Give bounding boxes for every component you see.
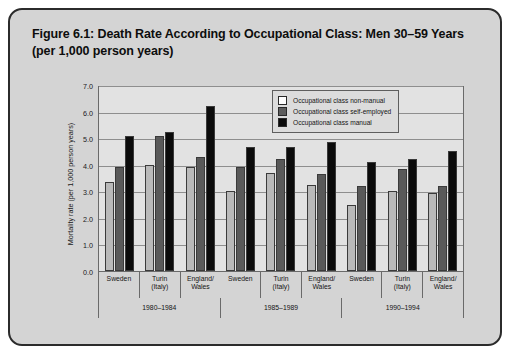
country-bar-group xyxy=(139,87,179,271)
x-axis-country-label: England/Wales xyxy=(302,272,342,298)
legend-item: Occupational class self-employed xyxy=(278,106,391,117)
bar-manual xyxy=(327,142,336,271)
country-bar-group xyxy=(99,87,139,271)
y-axis-tick-label: 1.0 xyxy=(83,241,93,250)
bar-non-manual xyxy=(307,185,316,271)
x-axis: SwedenTurin(Italy)England/WalesSwedenTur… xyxy=(98,272,464,326)
bar-self-employed xyxy=(155,136,164,272)
legend-swatch-icon xyxy=(278,107,287,116)
x-axis-country-label: England/Wales xyxy=(423,272,463,298)
legend-swatch-icon xyxy=(278,118,287,127)
legend-label: Occupational class non-manual xyxy=(293,97,385,104)
bar-non-manual xyxy=(226,191,235,271)
bar-non-manual xyxy=(186,167,195,271)
bar-non-manual xyxy=(347,205,356,271)
bar-manual xyxy=(367,162,376,271)
bar-non-manual xyxy=(105,182,114,271)
figure-panel: Figure 6.1: Death Rate According to Occu… xyxy=(8,8,502,346)
figure-title: Figure 6.1: Death Rate According to Occu… xyxy=(32,26,480,59)
bar-non-manual xyxy=(266,173,275,271)
y-axis-tick-label: 2.0 xyxy=(83,214,93,223)
bar-manual xyxy=(125,136,134,272)
bar-manual xyxy=(408,159,417,271)
x-axis-period-row: 1980–19841985–19891990–1994 xyxy=(98,298,464,318)
x-axis-period-label: 1985–1989 xyxy=(221,298,343,318)
legend-label: Occupational class self-employed xyxy=(293,108,391,115)
x-country-period-block: SwedenTurin(Italy)England/Wales xyxy=(220,272,341,298)
y-axis-tick-label: 4.0 xyxy=(83,161,93,170)
chart-legend: Occupational class non-manualOccupationa… xyxy=(272,90,399,133)
bar-self-employed xyxy=(357,186,366,271)
x-axis-country-label: Turin(Italy) xyxy=(382,272,423,298)
country-bar-group xyxy=(180,87,220,271)
x-axis-period-label: 1980–1984 xyxy=(99,298,221,318)
x-axis-country-label: Turin(Italy) xyxy=(140,272,181,298)
x-axis-country-label: Sweden xyxy=(220,272,261,298)
x-axis-country-label: Sweden xyxy=(99,272,140,298)
bar-self-employed xyxy=(438,186,447,271)
bar-manual xyxy=(246,147,255,271)
legend-label: Occupational class manual xyxy=(293,119,372,126)
x-axis-period-label: 1990–1994 xyxy=(342,298,463,318)
legend-item: Occupational class non-manual xyxy=(278,95,391,106)
bar-self-employed xyxy=(276,159,285,271)
legend-swatch-icon xyxy=(278,96,287,105)
bar-self-employed xyxy=(398,169,407,271)
y-axis-tick-label: 3.0 xyxy=(83,188,93,197)
y-axis-tick-label: 7.0 xyxy=(83,82,93,91)
period-group xyxy=(99,87,220,271)
y-axis-tick-label: 6.0 xyxy=(83,108,93,117)
bar-manual xyxy=(448,151,457,271)
y-axis-ticks: 0.01.02.03.04.05.06.07.0 xyxy=(72,86,96,272)
bar-non-manual xyxy=(428,193,437,271)
x-country-period-block: SwedenTurin(Italy)England/Wales xyxy=(342,272,463,298)
chart-container: Mortality rate (per 1,000 person years) … xyxy=(54,86,482,326)
country-bar-group xyxy=(220,87,260,271)
bar-non-manual xyxy=(145,165,154,271)
bar-self-employed xyxy=(236,167,245,271)
country-bar-group xyxy=(423,87,463,271)
x-axis-country-label: Turin(Italy) xyxy=(261,272,302,298)
bar-self-employed xyxy=(317,174,326,271)
legend-item: Occupational class manual xyxy=(278,117,391,128)
x-axis-country-label: Sweden xyxy=(342,272,383,298)
bar-manual xyxy=(206,106,215,271)
bar-non-manual xyxy=(388,191,397,271)
x-axis-country-label: England/Wales xyxy=(181,272,221,298)
bar-manual xyxy=(286,147,295,271)
x-axis-country-row: SwedenTurin(Italy)England/WalesSwedenTur… xyxy=(98,272,464,298)
y-axis-tick-label: 0.0 xyxy=(83,268,93,277)
x-country-period-block: SwedenTurin(Italy)England/Wales xyxy=(99,272,220,298)
bar-self-employed xyxy=(196,157,205,271)
bar-manual xyxy=(165,132,174,272)
y-axis-tick-label: 5.0 xyxy=(83,135,93,144)
bar-self-employed xyxy=(115,167,124,271)
